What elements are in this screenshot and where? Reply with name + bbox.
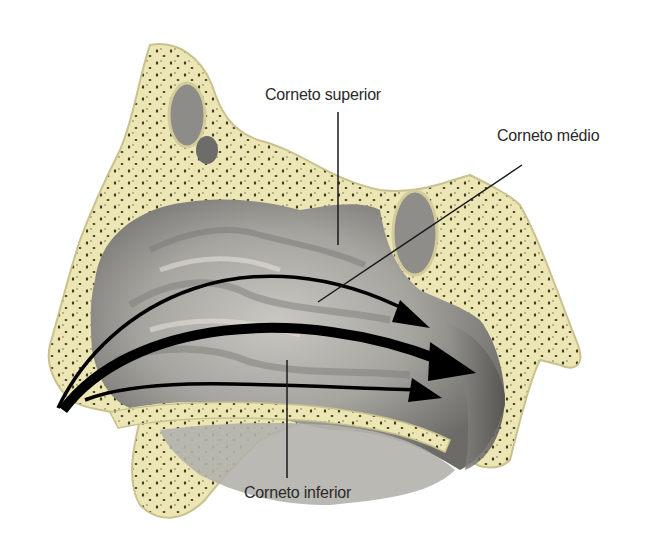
label-corneto-inferior: Corneto inferior xyxy=(244,484,351,502)
nasal-cavity-diagram: Corneto superior Corneto médio Corneto i… xyxy=(0,0,648,547)
frontal-sinus xyxy=(169,83,205,147)
sphenoid-sinus xyxy=(393,191,437,275)
label-corneto-superior: Corneto superior xyxy=(265,86,381,104)
anatomy-illustration xyxy=(0,0,648,547)
frontal-sinus-inner xyxy=(196,136,218,164)
label-corneto-medio: Corneto médio xyxy=(497,127,599,145)
